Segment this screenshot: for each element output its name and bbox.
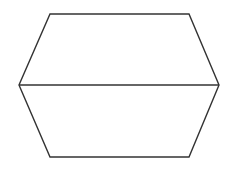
hexagon-diagram [0, 0, 236, 173]
